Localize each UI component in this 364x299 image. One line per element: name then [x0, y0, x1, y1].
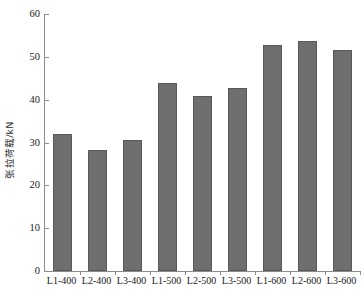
y-axis-tick-label: 40 [30, 94, 41, 105]
y-axis-title-text: 张拉荷载/kN [2, 121, 16, 178]
bar [228, 88, 248, 271]
bars-layer [45, 14, 360, 271]
y-axis-title: 张拉荷载/kN [0, 0, 18, 299]
bar-chart: 张拉荷载/kN 0102030405060 L1-400L2-400L3-400… [0, 0, 364, 299]
y-axis-tick-label: 10 [30, 223, 41, 234]
x-axis-tick-label: L2-500 [187, 276, 216, 286]
y-axis-tick [45, 271, 49, 272]
x-axis-tick-label: L2-600 [292, 276, 321, 286]
bar [333, 50, 353, 271]
bar [123, 140, 143, 271]
x-axis-tick [360, 271, 361, 275]
y-axis-tick-label: 60 [30, 9, 41, 20]
y-axis-tick-label: 0 [35, 266, 40, 277]
x-axis-tick-label: L1-600 [257, 276, 286, 286]
bar [158, 83, 178, 271]
bar [88, 150, 108, 271]
bar [298, 41, 318, 271]
bar [193, 96, 213, 271]
bar [263, 45, 283, 271]
x-axis-tick-label: L1-500 [152, 276, 181, 286]
x-axis-tick-label: L2-400 [82, 276, 111, 286]
bar [53, 134, 73, 271]
x-axis-tick-label: L3-500 [222, 276, 251, 286]
y-axis-tick-label: 50 [30, 52, 41, 63]
plot-area: 0102030405060 [44, 14, 360, 272]
y-axis-tick-label: 20 [30, 180, 41, 191]
x-axis-tick-label: L3-400 [117, 276, 146, 286]
x-axis-tick-label: L3-600 [327, 276, 356, 286]
y-axis-tick-label: 30 [30, 137, 41, 148]
x-axis-tick-label: L1-400 [47, 276, 76, 286]
